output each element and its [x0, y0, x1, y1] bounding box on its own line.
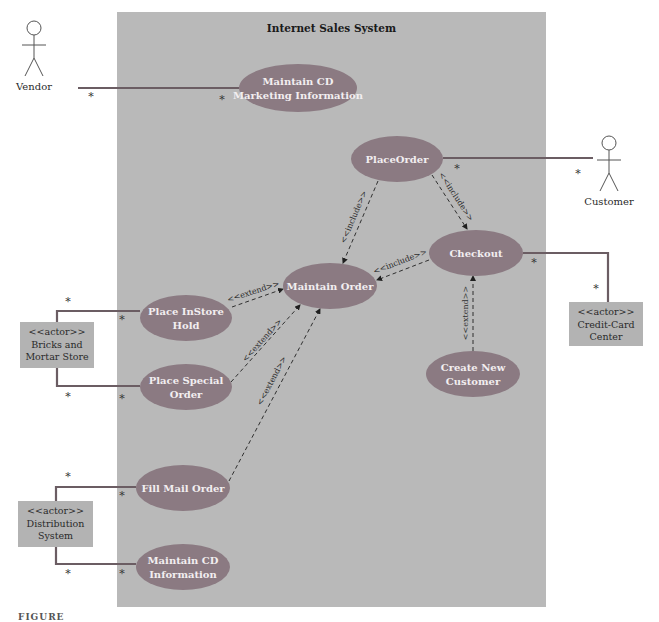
actor-label: Customer — [584, 196, 634, 207]
actor-label: Vendor — [15, 81, 52, 92]
use-case-label: Maintain CD — [263, 76, 334, 87]
use-case-ellipse[interactable] — [140, 364, 232, 410]
multiplicity-label: * — [119, 489, 125, 502]
multiplicity-label: * — [119, 392, 125, 405]
multiplicity-label: * — [575, 167, 581, 180]
actor-bricks[interactable]: <<actor>>Bricks andMortar Store — [20, 322, 94, 368]
use-case-label: Order — [170, 389, 203, 400]
actor-name-line: Center — [590, 331, 623, 342]
use-case-label: Maintain Order — [287, 281, 375, 292]
multiplicity-label: * — [219, 93, 225, 106]
multiplicity-label: * — [531, 256, 537, 269]
actor-stereotype: <<actor>> — [578, 306, 635, 317]
multiplicity-label: * — [119, 567, 125, 580]
use-case-label: Marketing Information — [233, 90, 364, 101]
use-case-ellipse[interactable] — [140, 295, 232, 341]
use-case-maintain-order[interactable]: Maintain Order — [283, 263, 377, 309]
actor-stereotype: <<actor>> — [27, 505, 84, 516]
use-case-label: PlaceOrder — [366, 154, 430, 165]
use-case-label: Customer — [446, 376, 501, 387]
use-case-label: Hold — [173, 320, 200, 331]
use-case-ellipse[interactable] — [426, 351, 520, 397]
use-case-label: Place Special — [149, 375, 224, 386]
use-case-create-new-customer[interactable]: Create NewCustomer — [426, 351, 520, 397]
use-case-place-instore-hold[interactable]: Place InStoreHold — [140, 295, 232, 341]
actor-name-line: Distribution — [27, 518, 85, 529]
actor-customer[interactable]: Customer — [584, 136, 634, 207]
use-case-maintain-cd-information[interactable]: Maintain CDInformation — [136, 544, 230, 590]
multiplicity-label: * — [65, 567, 71, 580]
use-case-place-order[interactable]: PlaceOrder — [351, 136, 443, 182]
multiplicity-label: * — [65, 470, 71, 483]
actor-name-line: Mortar Store — [25, 351, 89, 362]
stick-figure-icon — [597, 136, 621, 191]
system-title: Internet Sales System — [267, 22, 396, 34]
use-case-fill-mail-order[interactable]: Fill Mail Order — [136, 465, 230, 511]
use-case-label: Fill Mail Order — [141, 483, 225, 494]
actor-name-line: System — [38, 530, 73, 541]
stereotype-label: <<extend>> — [461, 286, 470, 340]
actor-distribution[interactable]: <<actor>>DistributionSystem — [18, 501, 93, 547]
use-case-place-special-order[interactable]: Place SpecialOrder — [140, 364, 232, 410]
use-case-label: Create New — [441, 362, 506, 373]
use-case-ellipse[interactable] — [136, 544, 230, 590]
stick-figure-icon — [22, 21, 46, 76]
figure-label: FIGURE — [18, 612, 64, 622]
multiplicity-label: * — [593, 282, 599, 295]
multiplicity-label: * — [88, 90, 94, 103]
use-case-diagram: Internet Sales System ************** <<i… — [0, 0, 659, 622]
multiplicity-label: * — [65, 390, 71, 403]
figure-caption: FIGURE — [18, 612, 64, 622]
multiplicity-label: * — [119, 313, 125, 326]
use-case-label: Maintain CD — [148, 555, 219, 566]
actor-creditcard[interactable]: <<actor>>Credit-CardCenter — [569, 302, 643, 346]
use-case-label: Place InStore — [148, 306, 224, 317]
use-case-ellipse[interactable] — [239, 64, 357, 112]
use-case-label: Checkout — [449, 248, 503, 259]
use-case-checkout[interactable]: Checkout — [429, 230, 523, 276]
diagram-canvas: Internet Sales System ************** <<i… — [0, 0, 659, 622]
multiplicity-label: * — [65, 295, 71, 308]
actor-name-line: Bricks and — [31, 339, 82, 350]
use-case-label: Information — [149, 569, 217, 580]
actor-vendor[interactable]: Vendor — [15, 21, 52, 92]
actor-name-line: Credit-Card — [577, 319, 634, 330]
multiplicity-label: * — [454, 162, 460, 175]
actor-stereotype: <<actor>> — [29, 326, 86, 337]
